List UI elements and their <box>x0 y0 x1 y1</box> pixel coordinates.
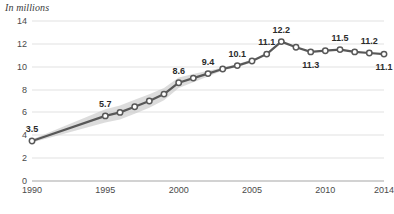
data-point-marker <box>367 50 372 55</box>
x-axis-tick-label: 2014 <box>374 185 394 195</box>
plot-area: 02468101214 199019952000200520102014 3.5… <box>32 21 384 181</box>
data-point-label: 3.5 <box>26 124 39 134</box>
data-point-label: 11.5 <box>331 33 348 43</box>
y-axis-tick-label: 12 <box>17 39 27 49</box>
data-point-marker <box>352 49 357 54</box>
y-axis-tick-label: 14 <box>17 16 27 26</box>
data-point-marker <box>235 63 240 68</box>
data-point-marker <box>176 80 181 85</box>
data-point-marker <box>337 47 342 52</box>
data-point-marker <box>29 138 34 143</box>
y-axis-tick-label: 6 <box>22 107 27 117</box>
data-point-marker <box>117 110 122 115</box>
data-point-marker <box>264 51 269 56</box>
data-point-marker <box>249 58 254 63</box>
data-point-marker <box>205 71 210 76</box>
data-point-label: 10.1 <box>229 49 247 59</box>
y-axis-tick-label: 2 <box>22 153 27 163</box>
data-point-label: 11.3 <box>302 60 319 70</box>
data-point-marker <box>381 51 386 56</box>
data-point-marker <box>293 45 298 50</box>
data-point-label: 11.1 <box>258 37 275 47</box>
data-point-marker <box>103 113 108 118</box>
series-layer <box>32 21 384 181</box>
x-axis-tick-label: 1995 <box>95 185 115 195</box>
x-axis-tick-label: 2000 <box>169 185 189 195</box>
x-axis-tick-label: 2005 <box>242 185 262 195</box>
data-point-marker <box>323 48 328 53</box>
x-axis-tick-label: 2010 <box>315 185 335 195</box>
data-point-marker <box>279 39 284 44</box>
data-point-marker <box>191 75 196 80</box>
data-point-label: 11.2 <box>361 36 378 46</box>
data-point-marker <box>220 66 225 71</box>
data-point-label: 12.2 <box>273 25 291 35</box>
data-point-marker <box>132 104 137 109</box>
data-point-label: 8.6 <box>172 66 185 76</box>
x-axis-tick-label: 1990 <box>22 185 42 195</box>
data-point-label: 11.1 <box>375 62 392 72</box>
data-point-marker <box>308 49 313 54</box>
line-chart: In millions 02468101214 1990199520002005… <box>0 0 394 214</box>
axis-unit-note: In millions <box>5 2 49 13</box>
data-point-label: 9.4 <box>202 57 215 67</box>
data-point-marker <box>161 91 166 96</box>
data-point-marker <box>147 98 152 103</box>
data-point-label: 5.7 <box>99 99 112 109</box>
y-axis-tick-label: 10 <box>17 62 27 72</box>
y-axis-tick-label: 8 <box>22 85 27 95</box>
